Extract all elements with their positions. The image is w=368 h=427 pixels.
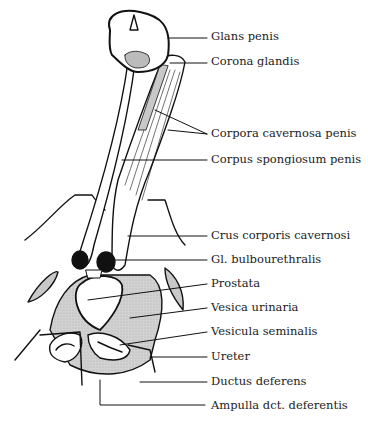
label-glans-penis: Glans penis <box>211 31 279 43</box>
label-ureter: Ureter <box>211 351 250 363</box>
anatomy-diagram: Glans penis Corona glandis Corpora caver… <box>0 0 368 427</box>
label-crus-corporis: Crus corporis cavernosi <box>211 230 350 242</box>
label-corpora-cavernosa: Corpora cavernosa penis <box>211 128 357 140</box>
label-corpus-spongiosum: Corpus spongiosum penis <box>211 154 361 166</box>
label-vesica-urinaria: Vesica urinaria <box>211 302 298 314</box>
anatomy-illustration <box>0 0 368 427</box>
label-ampulla: Ampulla dct. deferentis <box>211 400 348 412</box>
label-vesicula-seminalis: Vesicula seminalis <box>211 326 317 338</box>
label-corona-glandis: Corona glandis <box>211 56 299 68</box>
label-bulbourethralis: Gl. bulbourethralis <box>211 254 321 266</box>
label-prostata: Prostata <box>211 278 260 290</box>
label-ductus-deferens: Ductus deferens <box>211 376 307 388</box>
